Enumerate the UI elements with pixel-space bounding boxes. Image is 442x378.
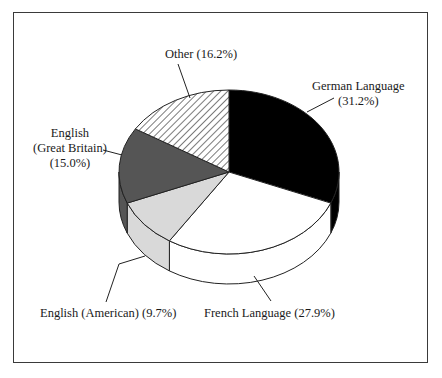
leader-other xyxy=(178,64,190,98)
label-other: Other (16.2%) xyxy=(165,47,237,62)
leader-american xyxy=(106,256,145,302)
label-american: English (American) (9.7%) xyxy=(40,306,176,321)
label-french-text: French Language (27.9%) xyxy=(204,306,335,321)
label-german-name: German Language xyxy=(312,79,405,94)
label-german: German Language (31.2%) xyxy=(312,79,405,109)
label-german-value: (31.2%) xyxy=(312,94,405,109)
label-gb-line1: English xyxy=(33,126,107,141)
label-gb-value: (15.0%) xyxy=(33,156,107,171)
label-other-text: Other (16.2%) xyxy=(165,47,237,62)
label-gb-line2: (Great Britain) xyxy=(33,141,107,156)
label-gb: English (Great Britain) (15.0%) xyxy=(33,126,107,171)
label-american-text: English (American) (9.7%) xyxy=(40,306,176,321)
label-french: French Language (27.9%) xyxy=(204,306,335,321)
